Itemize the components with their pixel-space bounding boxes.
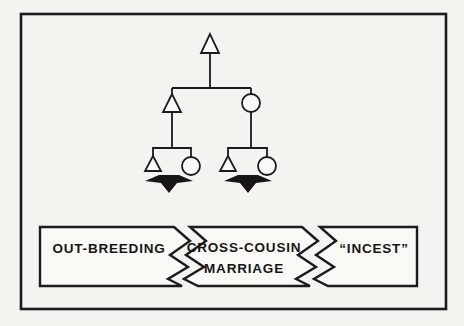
kinship-diagram [0, 0, 464, 326]
gen3-left-female-circle-icon [182, 157, 200, 175]
exchange-arrows [145, 175, 272, 193]
gen3-right-female-circle-icon [258, 157, 276, 175]
figure-page: OUT-BREEDING CROSS-COUSIN MARRIAGE “INCE… [0, 0, 464, 326]
right-down-arrow-icon [224, 175, 272, 193]
cross-cousin-label: CROSS-COUSIN [184, 240, 304, 256]
pedigree-tree [145, 34, 276, 175]
gen1-male-triangle-icon [201, 34, 219, 53]
incest-label: “INCEST” [326, 241, 422, 257]
banner-segment-cross-cousin-marriage [184, 227, 318, 286]
gen2-female-circle-icon [242, 94, 260, 112]
gen3-right-male-triangle-icon [220, 156, 236, 171]
out-breeding-label: OUT-BREEDING [42, 241, 176, 257]
gen2-male-triangle-icon [163, 94, 181, 112]
left-down-arrow-icon [145, 175, 193, 193]
gen3-left-male-triangle-icon [145, 156, 161, 171]
marriage-label: MARRIAGE [184, 261, 304, 277]
